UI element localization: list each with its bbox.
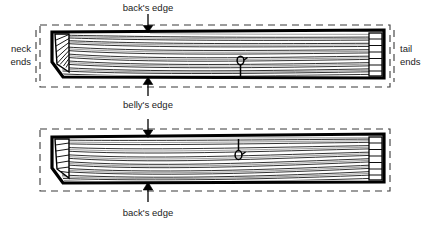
label-tail-ends-line2: ends <box>400 56 421 67</box>
label-neck-ends-line1: neck <box>11 43 31 54</box>
label-bellys-edge: belly's edge <box>123 99 173 110</box>
label-tail-ends-line1: tail <box>400 43 412 54</box>
label-neck-ends-line2: ends <box>10 56 31 67</box>
billet-grain-diagram: back's edge belly's edge back's edge nec… <box>0 0 431 233</box>
label-backs-edge-top: back's edge <box>123 2 173 13</box>
label-backs-edge-bottom: back's edge <box>123 207 173 218</box>
lower-billet-body <box>52 134 384 183</box>
diagram-root: back's edge belly's edge back's edge nec… <box>0 0 431 233</box>
lower-tail-end-grain-block <box>369 137 382 180</box>
upper-tail-end-grain-block <box>369 33 382 76</box>
